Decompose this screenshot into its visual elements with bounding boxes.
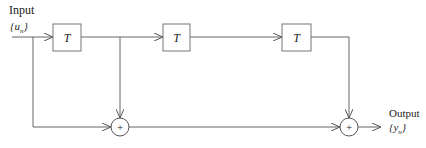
input-label: Input: [9, 3, 35, 17]
summer-2-plus: +: [346, 121, 352, 133]
block-diagram: Input {un} T T T + + Output {yn}: [0, 0, 426, 148]
output-label: Output: [389, 107, 420, 119]
summer-1-plus: +: [117, 121, 123, 133]
delay-3-to-sum-2-line: [311, 37, 349, 118]
output-signal: {yn}: [389, 121, 407, 136]
input-signal: {un}: [10, 20, 28, 35]
